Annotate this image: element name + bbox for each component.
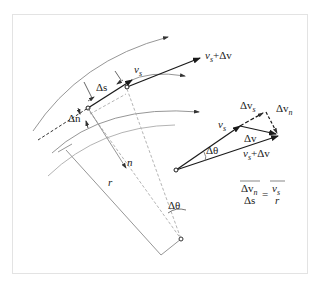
tri-delta-v-n-label: Δvn: [276, 102, 293, 117]
streamline-curvature-diagram: Δn Δs vs vs+Δv n r Δθ Δvs Δvn vs Δv Δθ v…: [0, 0, 318, 289]
tri-v-s-plus-dv-label: vs+Δv: [243, 147, 270, 162]
radial-construction: [90, 89, 181, 239]
tri-v-s-label: vs: [218, 118, 226, 133]
r-label: r: [108, 176, 113, 188]
tri-delta-v-label: Δv: [244, 132, 257, 144]
tri-delta-v-n: [266, 112, 277, 133]
streamlines: [33, 37, 199, 176]
delta-s-label: Δs: [96, 81, 107, 93]
n-label: n: [127, 156, 133, 168]
normal-and-radius: [58, 108, 181, 255]
tri-delta-theta-label: Δθ: [206, 144, 218, 156]
center-point: [179, 237, 183, 241]
formula-rhs-den: r: [275, 194, 280, 206]
delta-theta-label: Δθ: [168, 199, 180, 211]
triangle-origin: [174, 168, 178, 172]
point-b: [125, 85, 129, 89]
tri-delta-v-s: [240, 113, 263, 126]
delta-n-label: Δn: [68, 112, 81, 124]
r-dimension: [66, 150, 161, 255]
formula-equals: =: [262, 188, 268, 200]
formula: Δvn Δs = vs r: [240, 181, 285, 206]
v-s-label: vs: [134, 63, 142, 78]
formula-lhs-den: Δs: [244, 194, 255, 206]
tri-delta-v-s-label: Δvs: [240, 99, 256, 114]
vector-triangle: [176, 112, 278, 170]
v-s-plus-dv-label: vs+Δv: [205, 49, 232, 64]
